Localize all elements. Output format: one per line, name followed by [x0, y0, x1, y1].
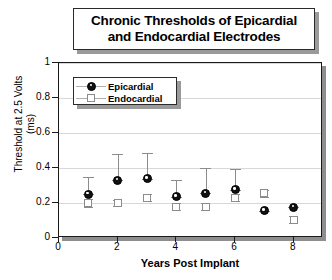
y-axis-label-line-1: Threshold at 2.5 Volts	[13, 44, 25, 204]
legend-marker-filled-circle-icon	[74, 80, 108, 92]
legend-marker-open-square-icon	[74, 92, 108, 104]
legend-item-epicardial: Epicardial	[74, 80, 176, 92]
chart-title-line-2: and Endocardial Electrodes	[108, 29, 281, 45]
data-point-epicardial	[113, 176, 122, 185]
data-point-epicardial	[143, 174, 152, 183]
legend-label-endocardial: Endocardial	[108, 93, 162, 104]
x-axis-tick-label: 8	[281, 242, 305, 252]
data-point-endocardial	[231, 194, 239, 202]
y-axis-tick-label: 0.2	[20, 197, 50, 207]
y-axis-tick-mark	[52, 97, 58, 98]
y-axis-tick-mark	[52, 62, 58, 63]
data-point-endocardial	[114, 199, 122, 207]
chart-title: Chronic Thresholds of Epicardial and End…	[73, 8, 315, 50]
y-axis-tick-label: 0.4	[20, 162, 50, 172]
x-axis-tick-label: 6	[222, 242, 246, 252]
data-point-endocardial	[260, 189, 268, 197]
error-bar-cap	[84, 207, 93, 208]
plot-area: Epicardial Endocardial	[58, 62, 322, 237]
data-point-epicardial	[289, 203, 298, 212]
error-bar-cap	[171, 180, 182, 181]
y-axis-tick-label: 1	[20, 57, 50, 67]
legend-item-endocardial: Endocardial	[74, 92, 176, 104]
error-bar-cap	[83, 177, 94, 178]
data-point-endocardial	[290, 216, 298, 224]
chart-title-line-1: Chronic Thresholds of Epicardial	[91, 13, 297, 29]
y-axis-tick-label: 0.8	[20, 92, 50, 102]
chart-legend: Epicardial Endocardial	[73, 77, 177, 105]
data-point-epicardial	[201, 189, 210, 198]
y-axis-label: Threshold at 2.5 Volts (ms)	[13, 44, 37, 204]
y-axis-tick-mark	[52, 132, 58, 133]
data-point-endocardial	[143, 194, 151, 202]
data-point-endocardial	[84, 199, 92, 207]
x-axis-label: Years Post Implant	[58, 257, 322, 269]
error-bar-cap	[230, 169, 241, 170]
data-point-endocardial	[202, 203, 210, 211]
legend-label-epicardial: Epicardial	[108, 81, 153, 92]
data-point-epicardial	[84, 190, 93, 199]
error-bar-cap	[112, 154, 123, 155]
x-axis-tick-label: 0	[46, 242, 70, 252]
data-point-epicardial	[231, 185, 240, 194]
y-axis-tick-mark	[52, 202, 58, 203]
x-axis-tick-label: 4	[163, 242, 187, 252]
x-axis-tick-label: 2	[105, 242, 129, 252]
gridline	[59, 133, 321, 134]
y-axis-label-line-2: (ms)	[25, 44, 37, 204]
data-point-epicardial	[260, 206, 269, 215]
data-point-epicardial	[172, 192, 181, 201]
gridline	[59, 63, 321, 64]
error-bar-cap	[200, 168, 211, 169]
data-point-endocardial	[172, 203, 180, 211]
y-axis-tick-mark	[52, 167, 58, 168]
gridline	[59, 168, 321, 169]
error-bar-cap	[142, 153, 153, 154]
gridline	[59, 203, 321, 204]
y-axis-tick-label: 0.6	[20, 127, 50, 137]
y-axis-tick-label: 0	[20, 232, 50, 242]
